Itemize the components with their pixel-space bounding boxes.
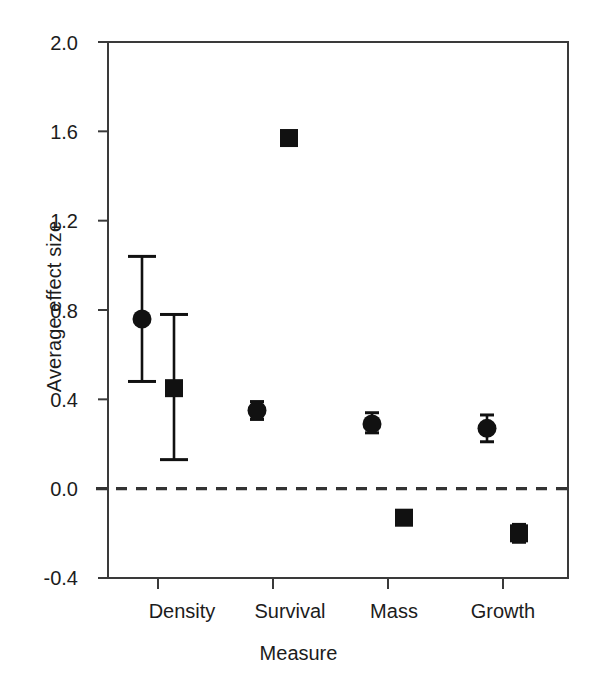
marker-square [280,129,298,147]
marker-square [395,509,413,527]
marker-square [165,379,183,397]
datapoint-square-density [160,314,188,459]
marker-circle [363,414,382,433]
datapoint-square-growth [510,524,528,542]
marker-circle [478,419,497,438]
datapoint-square-mass [395,509,413,527]
datapoint-circle-mass [363,413,382,434]
marker-square [510,524,528,542]
plot-area [0,0,597,687]
datapoint-square-survival [280,129,298,147]
effect-size-chart: Average effect size Measure 2.0 1.6 1.2 … [0,0,597,687]
datapoint-circle-growth [478,415,497,442]
datapoint-circle-density [128,256,156,381]
marker-circle [133,309,152,328]
plot-frame [108,42,568,578]
datapoint-circle-survival [248,401,267,420]
marker-circle [248,401,267,420]
